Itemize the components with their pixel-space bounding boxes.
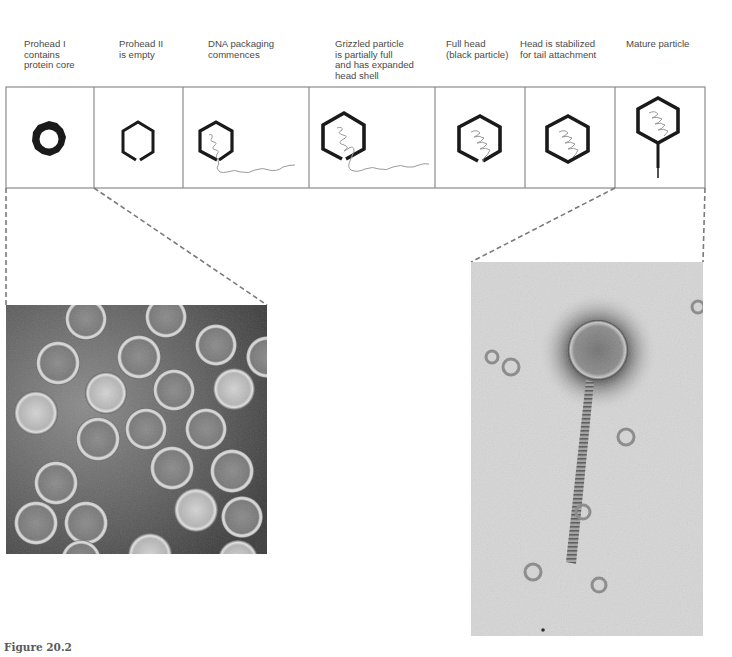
prohead-i-ring-icon xyxy=(32,121,66,156)
prohead-ii-empty-hexagon-icon xyxy=(123,122,153,160)
mature-particle-phage-icon xyxy=(638,98,678,178)
prohead-micrograph-image xyxy=(6,305,267,554)
mature-phage-micrograph xyxy=(471,262,703,636)
grizzled-particle-hexagon-icon xyxy=(323,113,429,171)
mature-phage-micrograph-image xyxy=(471,262,703,636)
prohead-micrograph xyxy=(6,305,267,554)
stabilized-head-hexagon-icon xyxy=(547,116,588,162)
stage-boxes xyxy=(6,87,705,188)
full-head-hexagon-icon xyxy=(459,116,500,162)
figure-caption: Figure 20.2 xyxy=(4,641,72,653)
dna-packaging-hexagon-icon xyxy=(200,122,295,173)
